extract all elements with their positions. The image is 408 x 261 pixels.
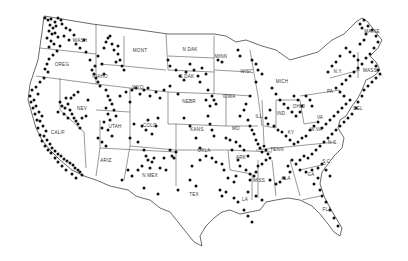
site-dot (79, 171, 82, 174)
site-dot (337, 225, 340, 228)
site-dot (67, 117, 70, 120)
state-label-ohio: OHIO (293, 104, 306, 109)
site-dot (255, 81, 258, 84)
site-dot (235, 141, 238, 144)
site-dot (325, 123, 328, 126)
site-dot (225, 191, 228, 194)
site-dot (42, 125, 45, 128)
site-dot (245, 103, 248, 106)
site-dot (295, 115, 298, 118)
site-dot (209, 123, 212, 126)
site-dot (117, 45, 120, 48)
site-dot (281, 131, 284, 134)
site-dot (44, 68, 47, 71)
state-label-colo: COLO (143, 123, 157, 128)
site-dot (331, 65, 334, 68)
state-label-ky: KY (288, 130, 295, 135)
site-dot (337, 111, 340, 114)
site-dot (239, 145, 242, 148)
site-dot (321, 195, 324, 198)
site-dot (61, 105, 64, 108)
state-label-sdak: S DAK (180, 74, 196, 79)
site-dot (64, 107, 67, 110)
site-dot (317, 167, 320, 170)
site-dot (48, 30, 51, 33)
site-dot (215, 161, 218, 164)
state-label-sc: S.C. (322, 159, 332, 164)
site-dot (119, 95, 122, 98)
site-dot (287, 165, 290, 168)
site-dot (103, 47, 106, 50)
state-label-kans: KANS (190, 127, 203, 132)
site-dot (163, 157, 166, 160)
site-dot (353, 55, 356, 58)
site-dot (37, 93, 40, 96)
site-dot (48, 46, 51, 49)
site-dot (173, 157, 176, 160)
site-dot (247, 155, 250, 158)
state-label-mo: MO (232, 126, 240, 131)
site-dot (183, 117, 186, 120)
site-dot (85, 51, 88, 54)
site-dot (72, 164, 75, 167)
site-dot (275, 183, 278, 186)
site-dot (261, 151, 264, 154)
site-dot (265, 159, 268, 162)
site-dot (359, 23, 362, 26)
site-dot (115, 61, 118, 64)
site-dot (301, 137, 304, 140)
site-dot (70, 97, 73, 100)
site-dot (363, 19, 366, 22)
site-dot (243, 109, 246, 112)
site-dot (361, 27, 364, 30)
state-label-nev: NEV (77, 106, 88, 111)
site-dot (63, 35, 66, 38)
site-dot (199, 159, 202, 162)
site-dot (335, 61, 338, 64)
site-dot (231, 149, 234, 152)
state-label-mont: MONT (133, 48, 147, 53)
site-dot (257, 69, 260, 72)
state-label-calif: CALIF (51, 130, 65, 135)
site-dot (111, 43, 114, 46)
site-dot (127, 169, 130, 172)
site-dot (207, 89, 210, 92)
site-dot (347, 117, 350, 120)
site-dot (323, 141, 326, 144)
site-dot (205, 99, 208, 102)
site-dot (147, 119, 150, 122)
site-dot (35, 86, 38, 89)
site-dot (137, 141, 140, 144)
site-dot (219, 189, 222, 192)
site-dot (111, 103, 114, 106)
site-dot (139, 93, 142, 96)
site-dot (59, 45, 62, 48)
site-dot (371, 61, 374, 64)
site-dot (157, 117, 160, 120)
state-label-minn: MINN (215, 54, 228, 59)
site-dot (105, 41, 108, 44)
site-dot (359, 43, 362, 46)
state-label-mich: MICH (276, 79, 289, 84)
site-dot (101, 63, 104, 66)
site-dot (261, 199, 264, 202)
site-dot (243, 149, 246, 152)
site-dot (267, 153, 270, 156)
site-dot (43, 77, 46, 80)
site-dot (71, 113, 74, 116)
site-dot (221, 61, 224, 64)
site-dot (51, 147, 54, 150)
site-dot (305, 135, 308, 138)
site-dot (109, 119, 112, 122)
site-dot (89, 59, 92, 62)
site-dot (97, 81, 100, 84)
site-dot (255, 63, 258, 66)
site-dot (349, 99, 352, 102)
site-dot (67, 103, 70, 106)
state-label-ga: GA (307, 172, 315, 177)
site-dot (243, 209, 246, 212)
site-dot (105, 145, 108, 148)
site-dot (85, 115, 88, 118)
site-dot (119, 59, 122, 62)
site-dot (331, 133, 334, 136)
